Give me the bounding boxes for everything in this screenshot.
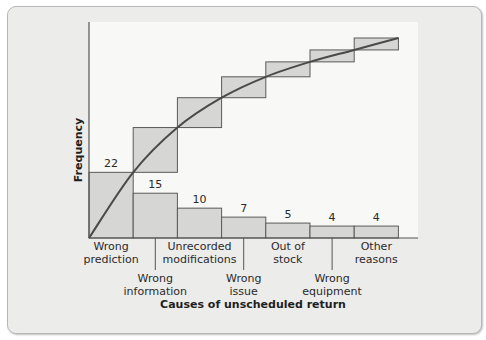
- data-label-2: 10: [193, 193, 207, 206]
- data-label-6: 4: [373, 211, 380, 224]
- data-label-5: 4: [329, 211, 336, 224]
- category-label-4: Out of: [271, 240, 306, 253]
- data-label-3: 7: [240, 202, 247, 215]
- bar-5: [310, 226, 354, 238]
- category-label-0: Wrong: [93, 240, 128, 253]
- x-axis-title: Causes of unscheduled return: [160, 298, 346, 311]
- category-label-5: Wrong: [314, 272, 349, 285]
- category-label-1: information: [124, 285, 188, 298]
- data-label-0: 22: [104, 157, 118, 170]
- bar-4: [266, 223, 310, 238]
- category-labels: WrongpredictionWronginformationUnrecorde…: [83, 238, 398, 298]
- category-label-6: reasons: [355, 253, 398, 266]
- category-label-6: Other: [361, 240, 393, 253]
- y-axis-title: Frequency: [72, 118, 85, 182]
- category-label-0: prediction: [83, 253, 138, 266]
- bar-6: [354, 226, 398, 238]
- category-label-4: stock: [273, 253, 303, 266]
- data-label-4: 5: [284, 208, 291, 221]
- category-label-2: Unrecorded: [168, 240, 232, 253]
- category-label-2: modifications: [162, 253, 236, 266]
- category-label-3: Wrong: [226, 272, 261, 285]
- category-label-3: issue: [230, 285, 258, 298]
- bar-1: [133, 193, 177, 238]
- category-label-1: Wrong: [138, 272, 173, 285]
- bar-2: [177, 208, 221, 238]
- bar-3: [222, 217, 266, 238]
- data-label-1: 15: [148, 178, 162, 191]
- category-label-5: equipment: [302, 285, 362, 298]
- pareto-chart: 2215107544 WrongpredictionWronginformati…: [0, 0, 486, 340]
